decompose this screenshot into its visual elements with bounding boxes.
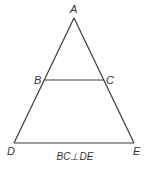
- point-label-d: D: [7, 145, 15, 157]
- point-label-c: C: [106, 74, 114, 86]
- point-label-a: A: [69, 3, 77, 15]
- diagram-caption: BC⊥DE: [57, 151, 94, 162]
- point-label-e: E: [133, 145, 141, 157]
- triangle-diagram: A B C D E BC⊥DE: [0, 0, 147, 172]
- point-label-b: B: [34, 74, 41, 86]
